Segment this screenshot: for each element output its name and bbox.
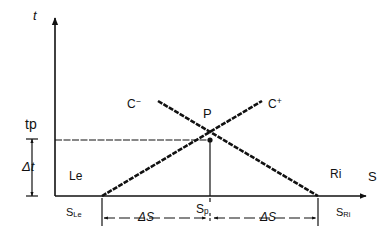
le-label: Le <box>69 170 82 182</box>
delta-s-right-label: ΔS <box>260 211 276 223</box>
point-p-marker <box>207 137 212 142</box>
s-le-label: SLe <box>66 207 82 219</box>
diagram-canvas: t S tp Δt Le Ri C− C+ P SLe Sp SRi ΔS ΔS <box>0 0 386 235</box>
t-axis-label: t <box>33 9 37 22</box>
s-le-subscript: Le <box>73 210 81 219</box>
tp-label: tp <box>25 117 37 131</box>
ri-label: Ri <box>330 168 341 180</box>
diagram-vector-layer <box>0 0 386 235</box>
s-ri-subscript: Ri <box>343 210 350 219</box>
c-minus-base: C <box>127 97 136 111</box>
c-minus-superscript: − <box>136 96 141 106</box>
s-p-subscript: p <box>204 207 209 216</box>
s-p-base: S <box>196 202 204 216</box>
c-plus-superscript: + <box>277 96 282 106</box>
s-axis-label: S <box>368 170 377 183</box>
s-p-label: Sp <box>196 203 209 217</box>
c-plus-base: C <box>268 97 277 111</box>
c-minus-label: C− <box>127 97 141 110</box>
s-ri-label: SRi <box>336 207 350 219</box>
point-p-label: P <box>203 107 212 120</box>
delta-s-left-label: ΔS <box>138 211 154 223</box>
c-plus-label: C+ <box>268 97 282 110</box>
delta-t-label: Δt <box>22 160 34 173</box>
